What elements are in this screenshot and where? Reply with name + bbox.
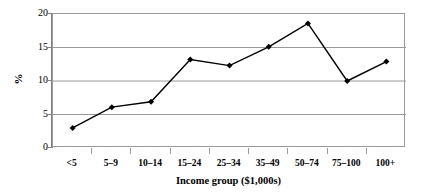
x-axis-tick-label: 50–74	[295, 157, 319, 169]
x-axis-tick-mark	[287, 148, 288, 154]
y-axis-tick-mark	[46, 147, 52, 148]
x-axis-tick-mark	[130, 148, 131, 154]
line-chart: % 05101520 <55–910–1415–2425–3435–4950–7…	[0, 0, 422, 195]
y-axis-tick-labels: 05101520	[24, 0, 48, 195]
data-point-marker	[383, 59, 389, 65]
y-axis-tick-label: 5	[26, 109, 48, 119]
x-axis-tick-label: 10–14	[138, 157, 162, 169]
y-axis-tick-mark	[46, 47, 52, 48]
y-axis-tick-label: 20	[26, 8, 48, 18]
x-axis-tick-mark	[327, 148, 328, 154]
y-axis-tick-label: 15	[26, 42, 48, 52]
x-axis-tick-label: 15–24	[177, 157, 201, 169]
data-point-marker	[109, 104, 115, 110]
x-axis-tick-label: 5–9	[104, 157, 118, 169]
x-axis-title: Income group ($1,000s)	[52, 175, 405, 186]
plot-area	[52, 13, 405, 147]
y-axis-tick-mark	[46, 114, 52, 115]
data-point-marker	[266, 44, 272, 50]
data-point-marker	[70, 125, 76, 131]
x-axis-tick-labels: <55–910–1415–2425–3435–4950–7475–100100+	[52, 157, 405, 173]
y-axis-tick-mark	[46, 80, 52, 81]
x-axis-tick-label: 25–34	[217, 157, 241, 169]
x-axis-tick-mark	[366, 148, 367, 154]
data-point-marker	[227, 63, 233, 69]
data-line	[73, 23, 387, 128]
x-axis-tick-mark	[248, 148, 249, 154]
x-axis-tick-label: 75–100	[332, 157, 361, 169]
x-axis-tick-label: 35–49	[256, 157, 280, 169]
x-axis-tick-label: <5	[67, 157, 77, 169]
x-axis-tick-mark	[170, 148, 171, 154]
x-axis-tick-mark	[91, 148, 92, 154]
x-axis-tick-mark	[209, 148, 210, 154]
x-axis-tick-label: 100+	[376, 157, 396, 169]
y-axis-tick-mark	[46, 13, 52, 14]
plot-svg	[53, 14, 406, 148]
y-axis-tick-label: 10	[26, 75, 48, 85]
y-axis-tick-label: 0	[26, 142, 48, 152]
